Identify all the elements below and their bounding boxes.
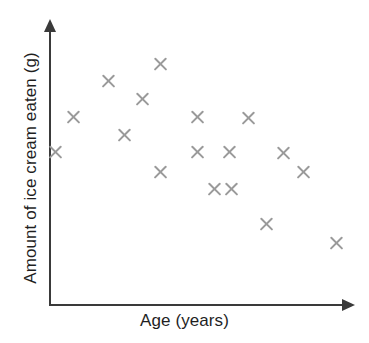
data-point-marker (328, 235, 345, 252)
data-point-marker (116, 127, 133, 144)
data-point-marker (275, 145, 292, 162)
data-point-marker (258, 216, 275, 233)
data-point-marker (152, 164, 169, 181)
data-point-marker (295, 164, 312, 181)
data-point-marker (223, 181, 240, 198)
data-point-marker (47, 144, 64, 161)
data-point-marker (65, 109, 82, 126)
plot-area (0, 0, 369, 343)
data-point-marker (134, 91, 151, 108)
data-point-marker (221, 144, 238, 161)
data-point-marker (240, 110, 257, 127)
data-point-marker (100, 73, 117, 90)
data-point-marker (189, 144, 206, 161)
x-axis-label: Age (years) (0, 311, 369, 331)
data-point-marker (206, 181, 223, 198)
data-point-marker (152, 56, 169, 73)
data-point-marker (189, 109, 206, 126)
y-axis-label: Amount of ice cream eaten (g) (21, 18, 41, 318)
scatter-chart: Amount of ice cream eaten (g) Age (years… (0, 0, 369, 343)
